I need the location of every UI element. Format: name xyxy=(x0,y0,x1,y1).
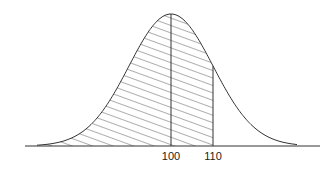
normal-distribution-chart: 100 110 xyxy=(0,0,335,170)
chart-plot xyxy=(0,0,335,170)
shaded-area xyxy=(37,14,213,146)
tick-label-110: 110 xyxy=(204,150,222,162)
tick-label-100: 100 xyxy=(162,150,180,162)
